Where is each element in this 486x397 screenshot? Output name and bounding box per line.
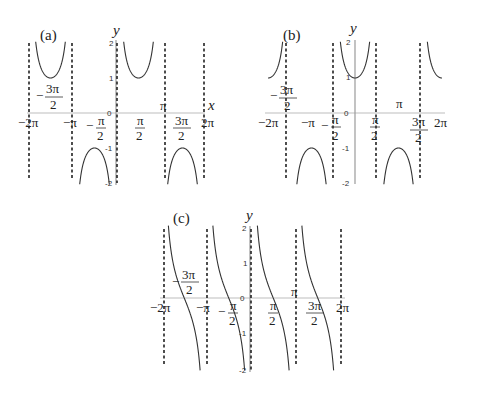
svg-text:π: π bbox=[230, 298, 237, 313]
panel-a-xtick-pi2: π 2 bbox=[135, 113, 145, 143]
svg-text:2: 2 bbox=[186, 282, 193, 297]
panel-b-xtick-negpi2: − π 2 bbox=[321, 112, 341, 143]
svg-text:3π: 3π bbox=[412, 114, 426, 129]
panel-b-xtick-neg2pi: −2π bbox=[258, 115, 279, 130]
svg-text:2: 2 bbox=[332, 128, 339, 143]
svg-text:2: 2 bbox=[229, 313, 236, 328]
svg-text:3π: 3π bbox=[182, 267, 196, 282]
panel-c-ytick-1: 1 bbox=[243, 259, 248, 268]
panel-c-ytick-0: 0 bbox=[240, 294, 245, 303]
panel-c-ytick-2: 2 bbox=[242, 224, 247, 233]
svg-text:2: 2 bbox=[284, 98, 291, 113]
panel-a-xtick-pi: π bbox=[160, 98, 167, 113]
panel-b-xtick-pi: π bbox=[396, 96, 403, 111]
panel-a-xtick-3pi2: 3π 2 bbox=[173, 113, 191, 143]
svg-text:2: 2 bbox=[178, 128, 185, 143]
panel-a-xtick-negpi: −π bbox=[63, 115, 77, 130]
panel-b-xtick-neg3pi2: − 3π 2 bbox=[270, 82, 297, 113]
panel-a-ytick-1: 1 bbox=[109, 74, 114, 83]
figure-canvas: (a) 2 1 0 -1 -2 y x −2π −π π 2π − 3π bbox=[0, 0, 486, 397]
panel-b: (b) 2 1 0 -1 -2 y −2π −π π 2π − 3π 2 − π… bbox=[258, 20, 448, 188]
panel-c-xtick-2pi: 2π bbox=[336, 300, 350, 315]
svg-text:2: 2 bbox=[50, 97, 57, 112]
panel-c-xtick-pi2: π 2 bbox=[268, 298, 278, 328]
svg-text:3π: 3π bbox=[175, 113, 189, 128]
svg-text:−: − bbox=[36, 88, 43, 103]
svg-text:π: π bbox=[270, 298, 277, 313]
svg-text:−: − bbox=[270, 88, 277, 103]
panel-b-y-label: y bbox=[348, 20, 357, 36]
svg-text:π: π bbox=[98, 113, 105, 128]
svg-text:2: 2 bbox=[136, 128, 143, 143]
panel-b-ytick-1: 1 bbox=[346, 73, 351, 82]
panel-a-x-label: x bbox=[207, 97, 215, 113]
panel-c-xtick-neg3pi2: − 3π 2 bbox=[172, 267, 199, 297]
panel-a-label: (a) bbox=[40, 27, 57, 44]
panel-a: (a) 2 1 0 -1 -2 y x −2π −π π 2π − 3π bbox=[18, 22, 215, 188]
panel-c: (c) 2 1 0 -1 -2 y −2π −π π 2π − 3π 2 − π bbox=[150, 207, 350, 375]
panel-a-ytick-m2: -2 bbox=[105, 179, 113, 188]
panel-a-ytick-2: 2 bbox=[109, 39, 114, 48]
panel-b-xtick-2pi: 2π bbox=[434, 115, 448, 130]
panel-a-ytick-m1: -1 bbox=[105, 144, 113, 153]
panel-a-xtick-negpi2: − π 2 bbox=[86, 113, 106, 143]
panel-a-ytick-0: 0 bbox=[107, 109, 112, 118]
panel-b-ytick-m2: -2 bbox=[342, 179, 350, 188]
panel-b-ytick-m1: -1 bbox=[342, 144, 350, 153]
svg-text:π: π bbox=[332, 112, 339, 127]
panel-a-y-label: y bbox=[111, 22, 120, 38]
svg-text:−: − bbox=[172, 274, 179, 289]
panel-a-xtick-2pi: 2π bbox=[201, 115, 215, 130]
svg-text:2: 2 bbox=[415, 130, 422, 145]
svg-text:−: − bbox=[321, 118, 328, 133]
svg-text:3π: 3π bbox=[308, 298, 322, 313]
panel-c-xtick-pi: π bbox=[291, 284, 298, 299]
panel-c-xtick-neg2pi: −2π bbox=[150, 300, 171, 315]
svg-text:−: − bbox=[218, 304, 225, 319]
panel-b-ytick-0: 0 bbox=[344, 109, 349, 118]
svg-text:π: π bbox=[372, 112, 379, 127]
panel-b-ytick-2: 2 bbox=[346, 38, 351, 47]
panel-c-y-label: y bbox=[244, 207, 253, 223]
panel-a-xtick-neg2pi: −2π bbox=[18, 115, 39, 130]
panel-c-xtick-negpi: −π bbox=[196, 300, 210, 315]
panel-c-label: (c) bbox=[173, 210, 190, 227]
svg-text:−: − bbox=[86, 118, 93, 133]
panel-b-xtick-3pi2: 3π 2 bbox=[410, 114, 428, 145]
panel-c-ytick-m1: -1 bbox=[239, 329, 247, 338]
svg-text:2: 2 bbox=[97, 128, 104, 143]
svg-text:π: π bbox=[137, 113, 144, 128]
panel-a-xtick-neg3pi2: − 3π 2 bbox=[36, 81, 63, 112]
svg-text:3π: 3π bbox=[46, 81, 60, 96]
svg-text:2: 2 bbox=[311, 313, 318, 328]
panel-b-xtick-negpi: −π bbox=[301, 115, 315, 130]
panel-c-ytick-m2: -2 bbox=[239, 366, 247, 375]
panel-b-asymptotes bbox=[286, 43, 420, 180]
svg-text:3π: 3π bbox=[280, 82, 294, 97]
panel-b-label: (b) bbox=[283, 27, 301, 44]
panel-c-xtick-negpi2: − π 2 bbox=[218, 298, 238, 328]
svg-text:2: 2 bbox=[269, 313, 276, 328]
svg-text:2: 2 bbox=[371, 128, 378, 143]
panel-b-xtick-pi2: π 2 bbox=[370, 112, 380, 143]
panel-c-xtick-3pi2: 3π 2 bbox=[306, 298, 324, 328]
